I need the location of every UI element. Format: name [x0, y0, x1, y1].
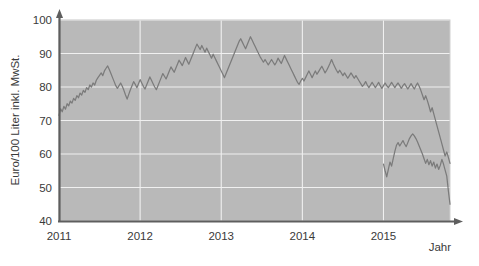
y-axis-title: Euro/100 Liter inkl. MwSt.	[9, 54, 21, 185]
x-tick-label: 2013	[208, 230, 234, 242]
y-tick-label: 70	[39, 115, 52, 127]
x-tick-label: 2014	[290, 230, 316, 242]
x-tick-label: 2011	[47, 230, 72, 242]
chart-svg: 405060708090100 20112012201320142015 Eur…	[0, 0, 479, 266]
y-tick-label: 80	[39, 81, 52, 93]
y-tick-label: 50	[39, 182, 52, 194]
x-axis-title: Jahr	[429, 241, 452, 253]
x-tick-label: 2015	[371, 230, 397, 242]
y-tick-label: 90	[39, 48, 52, 60]
y-tick-label: 100	[33, 14, 52, 26]
x-tick-label: 2012	[127, 230, 153, 242]
y-tick-label: 60	[39, 148, 52, 160]
y-tick-label: 40	[39, 215, 52, 227]
chart-figure: 405060708090100 20112012201320142015 Eur…	[0, 0, 479, 266]
